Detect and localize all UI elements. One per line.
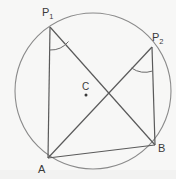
label-p2: P2: [152, 31, 164, 46]
segment-a-b: [48, 145, 155, 158]
center-point-dot: [85, 94, 88, 97]
segment-p2-a: [48, 47, 152, 158]
label-p1-subscript: 1: [49, 12, 53, 21]
label-center-c: C: [82, 81, 89, 92]
segment-p2-b: [152, 47, 155, 145]
label-p2-base: P: [152, 31, 159, 43]
figure-footer-band: [0, 170, 176, 179]
label-p1-base: P: [42, 6, 49, 18]
figure-canvas: P1 P2 A B C: [0, 0, 176, 179]
angle-arc-p1-icon: [50, 42, 69, 51]
angle-arc-p2-icon: [132, 68, 153, 72]
label-a: A: [38, 163, 46, 175]
segment-p1-a: [48, 27, 50, 158]
label-p1: P1: [42, 6, 54, 21]
label-p2-subscript: 2: [159, 37, 163, 46]
geometry-figure: P1 P2 A B C: [0, 0, 176, 179]
label-b: B: [158, 142, 165, 154]
